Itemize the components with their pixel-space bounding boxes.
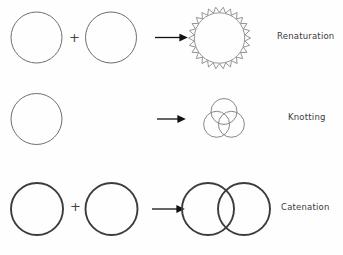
row-knotting [11,94,244,145]
single-stranded-circle-left [11,12,62,63]
row-renaturation [11,7,251,69]
catenane-interlocked-circles [182,183,270,235]
trefoil-knot [204,99,245,138]
row-label-catenation: Catenation [281,202,330,212]
row-catenation [11,183,270,235]
row-label-renaturation: Renaturation [277,31,334,41]
catenane-circle-right [218,183,270,235]
single-circle-knotting [11,94,62,145]
closed-circle-right [86,183,138,235]
closed-circle-left [11,183,63,235]
single-stranded-circle-right [86,12,137,63]
row-label-knotting: Knotting [288,112,326,122]
plus-operator-renaturation: + [69,31,80,44]
double-stranded-wavy-circle [189,7,251,69]
plus-operator-catenation: + [70,200,81,213]
